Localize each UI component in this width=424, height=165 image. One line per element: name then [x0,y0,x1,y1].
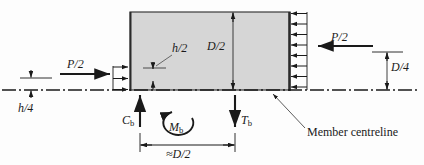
label-dim-d-quarter: D/4 [391,61,409,73]
compression-force-subscript: b [130,118,134,128]
label-dim-h-quarter: h/4 [18,102,33,114]
label-tension-force: Tb [241,114,252,127]
moment-symbol: M [169,120,179,134]
label-spacing-dimension: ≈D/2 [166,148,191,160]
label-load-right: P/2 [331,31,348,43]
tension-force-subscript: b [248,118,252,128]
label-load-left: P/2 [67,58,84,70]
centreline-callout-leader [273,94,305,128]
tension-force-symbol: T [241,113,248,127]
label-moment: Mb [169,121,183,134]
figure-canvas: P/2 h/4 h/2 D/2 P/2 D/4 Cb Mb Tb ≈D/2 Me… [0,0,424,165]
compression-force-symbol: C [122,113,130,127]
diagram-vector-layer [0,0,424,165]
label-centreline-callout: Member centreline [307,126,398,138]
label-dim-d-half: D/2 [207,40,225,52]
label-dim-h-half: h/2 [172,42,187,54]
moment-subscript: b [179,125,183,135]
label-compression-force: Cb [122,114,134,127]
